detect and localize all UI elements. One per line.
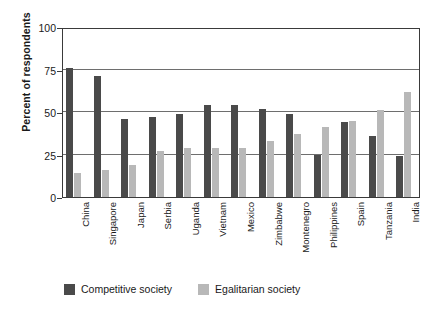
legend-swatch-icon	[64, 284, 75, 295]
legend-label: Egalitarian society	[215, 283, 300, 295]
bar-group	[118, 29, 146, 197]
bar	[286, 114, 293, 197]
x-tick-label: China	[80, 202, 91, 227]
bar-group	[173, 29, 201, 197]
legend-label: Competitive society	[81, 283, 172, 295]
x-tick-label: Uganda	[190, 202, 201, 235]
legend-swatch-icon	[198, 284, 209, 295]
bar-group	[256, 29, 284, 197]
bar	[129, 165, 136, 197]
y-tick-label: 75	[0, 66, 56, 76]
bar-group	[91, 29, 119, 197]
x-tick-label: Philippines	[328, 202, 339, 248]
bar-group	[393, 29, 421, 197]
bar	[259, 109, 266, 197]
plot-area	[62, 28, 420, 198]
bar	[102, 170, 109, 197]
bar-group	[311, 29, 339, 197]
bar-chart-figure: Percent of respondents 0255075100 ChinaS…	[0, 0, 434, 321]
bar	[94, 76, 101, 197]
bar	[396, 156, 403, 197]
bar	[157, 151, 164, 197]
bar	[239, 148, 246, 197]
bar	[377, 110, 384, 197]
y-tick-mark	[57, 198, 62, 199]
x-tick-label: Zimbabwe	[273, 202, 284, 246]
x-tick-label: Singapore	[107, 202, 118, 245]
y-tick-label: 0	[0, 193, 56, 203]
bar	[404, 92, 411, 197]
bar	[322, 127, 329, 197]
bar-group	[338, 29, 366, 197]
bar-group	[366, 29, 394, 197]
x-tick-label: Serbia	[162, 202, 173, 229]
x-tick-label: Vietnam	[217, 202, 228, 237]
x-tick-label: India	[410, 202, 421, 223]
bar-group	[63, 29, 91, 197]
y-tick-label: 25	[0, 151, 56, 161]
bar	[267, 141, 274, 197]
bar	[121, 119, 128, 197]
bar	[231, 105, 238, 197]
legend-item: Competitive society	[64, 283, 172, 295]
bar-group	[228, 29, 256, 197]
chart-legend: Competitive societyEgalitarian society	[64, 283, 300, 295]
bar-group	[146, 29, 174, 197]
x-tick-label: Spain	[355, 202, 366, 226]
bar	[204, 105, 211, 197]
bar	[314, 155, 321, 198]
y-tick-label: 100	[0, 23, 56, 33]
bar	[212, 148, 219, 197]
bar	[149, 117, 156, 197]
bar	[349, 121, 356, 198]
x-tick-label: Tanzania	[383, 202, 394, 240]
x-tick-label: Japan	[135, 202, 146, 228]
bar-group	[201, 29, 229, 197]
bar	[176, 114, 183, 197]
bar	[66, 68, 73, 197]
x-tick-label: Montenegro	[300, 202, 311, 253]
bar	[184, 148, 191, 197]
bar	[74, 173, 81, 197]
bar	[341, 122, 348, 197]
x-tick-label: Mexico	[245, 202, 256, 232]
bar	[294, 134, 301, 197]
legend-item: Egalitarian society	[198, 283, 300, 295]
bar-group	[283, 29, 311, 197]
bar	[369, 136, 376, 197]
y-tick-label: 50	[0, 108, 56, 118]
